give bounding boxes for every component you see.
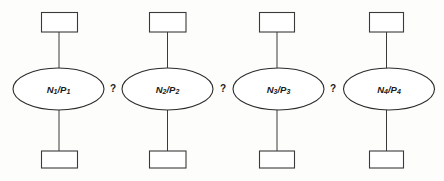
top-box-2[interactable] bbox=[150, 13, 187, 33]
stage-group-3: N3/P3 bbox=[233, 13, 324, 169]
separator-question-mark-3: ? bbox=[330, 83, 336, 94]
stage-group-1: N1/P1 bbox=[13, 13, 104, 169]
ellipse-3-sub2: 3 bbox=[286, 88, 290, 95]
ellipse-1-sub2: 1 bbox=[66, 88, 70, 95]
stage-group-2: N2/P2 bbox=[122, 13, 213, 169]
top-box-1[interactable] bbox=[42, 13, 78, 33]
bottom-box-2[interactable] bbox=[150, 151, 187, 168]
bottom-box-3[interactable] bbox=[260, 151, 295, 168]
top-box-4[interactable] bbox=[370, 13, 404, 33]
ellipse-4-sub2: 4 bbox=[396, 88, 401, 95]
stage-group-4: N4/P4 bbox=[344, 13, 435, 169]
chain-diagram: N1/P1 ? N2/P2 ? bbox=[0, 0, 444, 181]
bottom-box-1[interactable] bbox=[42, 151, 78, 168]
diagram-canvas: N1/P1 ? N2/P2 ? bbox=[0, 0, 444, 181]
bottom-box-4[interactable] bbox=[370, 151, 404, 168]
separator-question-mark-2: ? bbox=[220, 83, 226, 94]
top-box-3[interactable] bbox=[260, 13, 295, 33]
ellipse-2-sub2: 2 bbox=[174, 88, 179, 95]
separator-question-mark-1: ? bbox=[110, 83, 116, 94]
